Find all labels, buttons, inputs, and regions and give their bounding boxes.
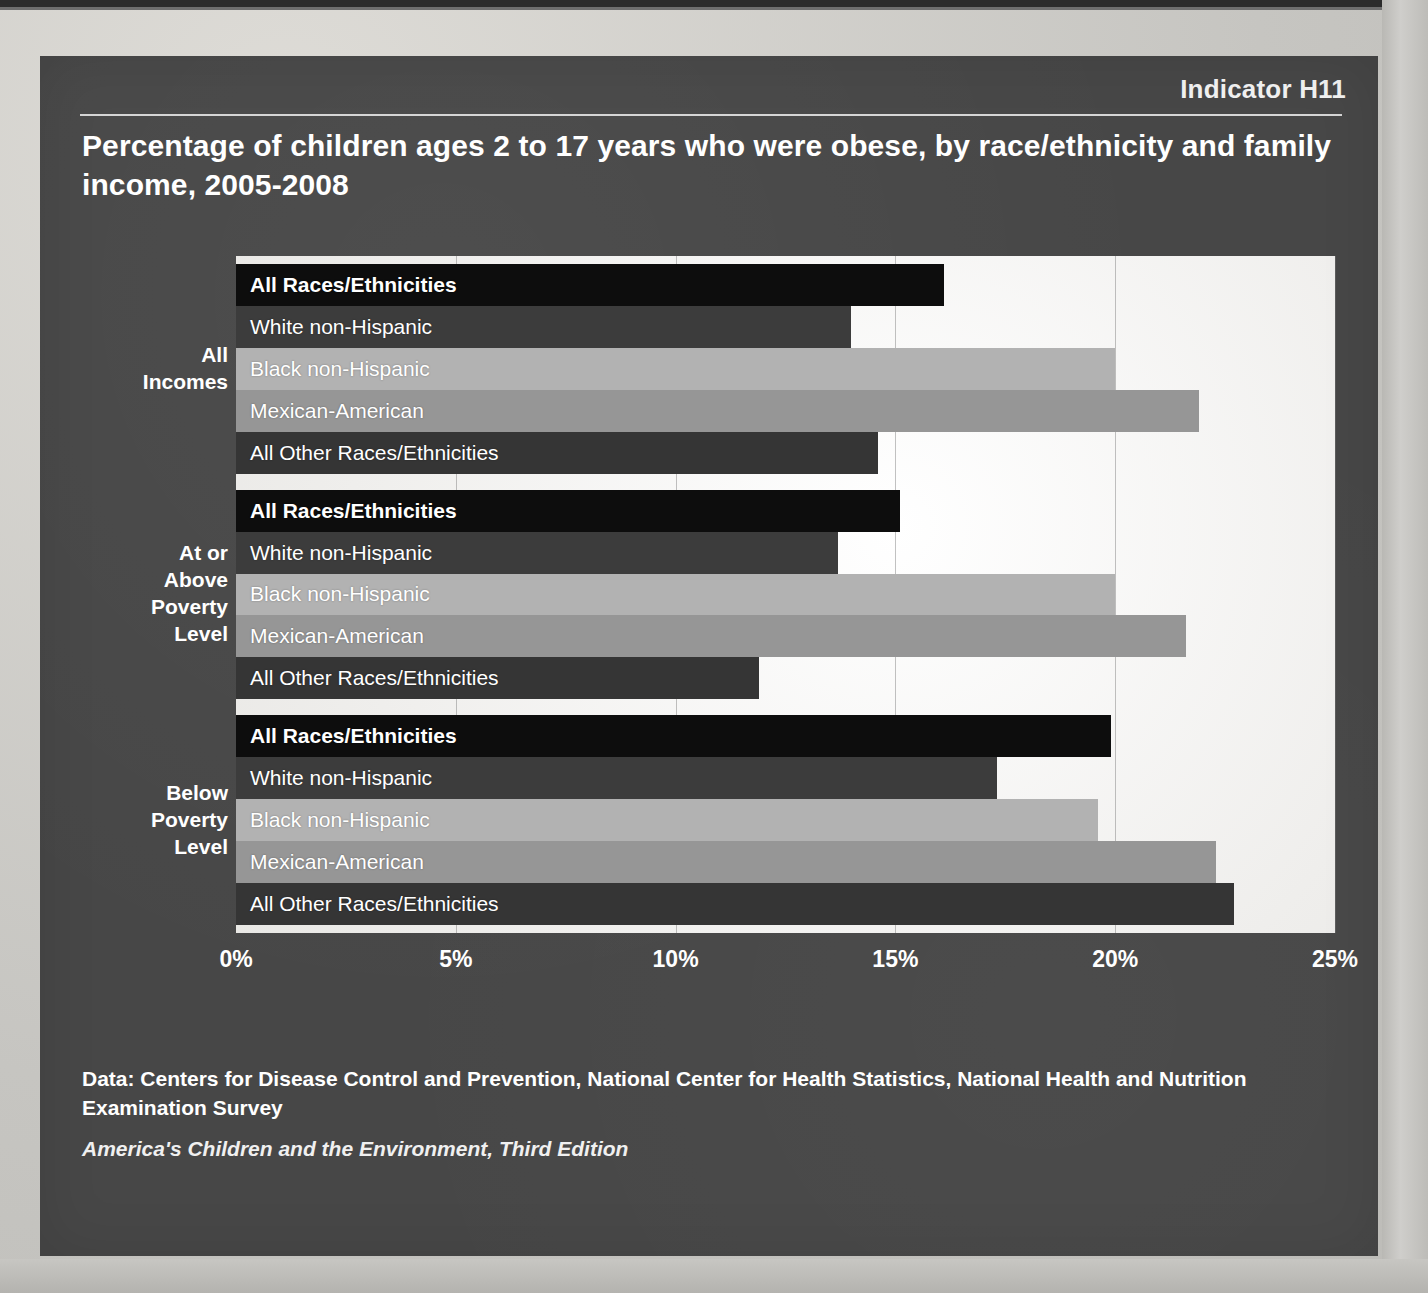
group-label: At orAbovePovertyLevel xyxy=(86,541,228,649)
x-axis: 0%5%10%15%20%25% xyxy=(236,946,1335,986)
x-axis-tick-label: 5% xyxy=(439,946,472,973)
x-axis-tick-label: 10% xyxy=(653,946,699,973)
page-bottom-margin xyxy=(0,1259,1428,1293)
indicator-panel: Indicator H11 Percentage of children age… xyxy=(40,56,1378,1256)
x-axis-tick-label: 25% xyxy=(1312,946,1358,973)
bar-row: Black non-Hispanic xyxy=(236,574,1335,616)
bar-row: All Other Races/Ethnicities xyxy=(236,657,1335,699)
x-axis-tick-label: 0% xyxy=(219,946,252,973)
bar-category-label: All Other Races/Ethnicities xyxy=(250,892,499,916)
bar-row: All Other Races/Ethnicities xyxy=(236,432,1335,474)
header-divider xyxy=(80,114,1342,116)
bar-category-label: Black non-Hispanic xyxy=(250,808,430,832)
bar-category-label: Mexican-American xyxy=(250,399,424,423)
bar-category-label: Black non-Hispanic xyxy=(250,357,430,381)
bar-row: White non-Hispanic xyxy=(236,757,1335,799)
chart-plot-wrapper: All Races/EthnicitiesWhite non-HispanicB… xyxy=(196,256,1311,933)
bar-row: All Races/Ethnicities xyxy=(236,264,1335,306)
bar-row: Mexican-American xyxy=(236,841,1335,883)
chart-footer: Data: Centers for Disease Control and Pr… xyxy=(82,1064,1312,1161)
bar-row: All Races/Ethnicities xyxy=(236,490,1335,532)
publication-text: America's Children and the Environment, … xyxy=(82,1137,1312,1161)
group-label: BelowPovertyLevel xyxy=(86,780,228,861)
bar-category-label: Mexican-American xyxy=(250,624,424,648)
page-top-rule-secondary xyxy=(0,7,1428,10)
bar-row: All Other Races/Ethnicities xyxy=(236,883,1335,925)
group-label: AllIncomes xyxy=(86,342,228,396)
chart-title: Percentage of children ages 2 to 17 year… xyxy=(82,126,1352,204)
bar-category-label: All Other Races/Ethnicities xyxy=(250,441,499,465)
page-right-margin xyxy=(1382,0,1428,1293)
x-axis-tick-label: 15% xyxy=(872,946,918,973)
indicator-id: Indicator H11 xyxy=(1180,74,1346,105)
bar-row: Black non-Hispanic xyxy=(236,799,1335,841)
bar-category-label: Mexican-American xyxy=(250,850,424,874)
chart-plot-area: All Races/EthnicitiesWhite non-HispanicB… xyxy=(236,256,1335,933)
bar-group: All Races/EthnicitiesWhite non-HispanicB… xyxy=(236,264,1335,474)
bar-category-label: White non-Hispanic xyxy=(250,541,432,565)
bar-group: All Races/EthnicitiesWhite non-HispanicB… xyxy=(236,490,1335,700)
bar-category-label: All Races/Ethnicities xyxy=(250,724,457,748)
bar-category-label: All Races/Ethnicities xyxy=(250,273,457,297)
bar-row: All Races/Ethnicities xyxy=(236,715,1335,757)
bar-row: White non-Hispanic xyxy=(236,532,1335,574)
bar-category-label: All Races/Ethnicities xyxy=(250,499,457,523)
gridline xyxy=(1335,256,1336,933)
bar-row: Mexican-American xyxy=(236,390,1335,432)
bar-category-label: White non-Hispanic xyxy=(250,315,432,339)
bar-category-label: White non-Hispanic xyxy=(250,766,432,790)
bar-category-label: All Other Races/Ethnicities xyxy=(250,666,499,690)
page-top-rule xyxy=(0,0,1428,7)
data-source-text: Data: Centers for Disease Control and Pr… xyxy=(82,1064,1312,1123)
bar-row: White non-Hispanic xyxy=(236,306,1335,348)
bar-row: Mexican-American xyxy=(236,615,1335,657)
bar-row: Black non-Hispanic xyxy=(236,348,1335,390)
x-axis-tick-label: 20% xyxy=(1092,946,1138,973)
bar-group: All Races/EthnicitiesWhite non-HispanicB… xyxy=(236,715,1335,925)
bar-category-label: Black non-Hispanic xyxy=(250,582,430,606)
